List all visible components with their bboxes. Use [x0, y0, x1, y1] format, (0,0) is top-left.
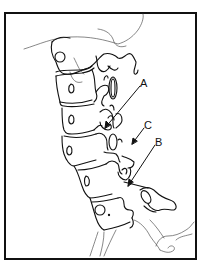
vertebra-c2-body	[56, 66, 117, 106]
label-a: A	[140, 78, 147, 89]
vertebra-c6	[90, 188, 176, 230]
label-b: B	[155, 137, 162, 148]
label-c: C	[144, 120, 152, 131]
spine-illustration-figure: A C B	[0, 0, 208, 270]
lower-soft-tissue-contour	[90, 220, 194, 256]
arrow-b	[128, 145, 155, 186]
vertebra-c1-c2	[51, 37, 138, 74]
label-arrows	[105, 86, 155, 186]
arrow-a	[105, 86, 140, 128]
vertebra-c5	[74, 156, 148, 198]
arrowhead-a	[105, 121, 110, 128]
cervical-spine-drawing	[0, 0, 208, 270]
